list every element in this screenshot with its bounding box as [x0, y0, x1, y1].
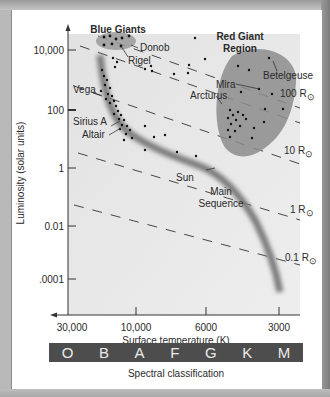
spectral-class-m: M: [278, 344, 291, 361]
y-axis-arrow-icon: [66, 24, 71, 31]
red-giant-label-1: Red Giant: [216, 31, 264, 42]
blue-giants-label: Blue Giants: [90, 24, 146, 35]
ytick-0.01: 0.01: [45, 221, 65, 232]
xtick-10000: 10,000: [121, 322, 152, 333]
spectral-class-a: A: [135, 344, 145, 361]
star-label-sirius-a: Sirius A: [73, 116, 107, 127]
star-label-betelgeuse: Betelgeuse: [263, 70, 313, 81]
xtick-6000: 6000: [195, 322, 218, 333]
star-label-rigel: Rigel: [128, 55, 151, 66]
spectral-class-bar: O B A F G K M: [49, 343, 303, 362]
star-label-sun: Sun: [176, 172, 194, 183]
spectral-class-k: K: [242, 344, 252, 361]
star-label-mira: Mira: [216, 79, 236, 90]
y-axis-label: Luminosity (solar units): [15, 122, 26, 225]
ytick-1: 1: [58, 163, 64, 174]
spectral-class-g: G: [205, 344, 217, 361]
star-label-arcturus: Arcturus: [190, 90, 227, 101]
star-label-altair: Altair: [82, 129, 105, 140]
star-label-vega: Vega: [73, 84, 96, 95]
star-label-deneb: Donob: [140, 42, 170, 53]
spectral-class-f: F: [170, 344, 179, 361]
spectral-classification-label: Spectral classification: [49, 368, 303, 379]
hr-diagram: 10,000 100 1 0.01 .0001 30,000 10,000 60…: [0, 0, 330, 397]
spectral-class-b: B: [99, 344, 109, 361]
ytick-10000: 10,000: [33, 45, 64, 56]
ytick-0.0001: .0001: [39, 274, 64, 285]
main-sequence-label-2: Sequence: [198, 198, 243, 209]
ytick-100: 100: [47, 105, 64, 116]
main-sequence-label-1: Main: [210, 186, 232, 197]
xtick-3000: 3000: [268, 322, 291, 333]
spectral-class-o: O: [62, 344, 74, 361]
x-axis-arrow-icon: [50, 313, 57, 318]
xtick-30000: 30,000: [57, 322, 88, 333]
red-giant-label-2: Region: [223, 43, 257, 54]
